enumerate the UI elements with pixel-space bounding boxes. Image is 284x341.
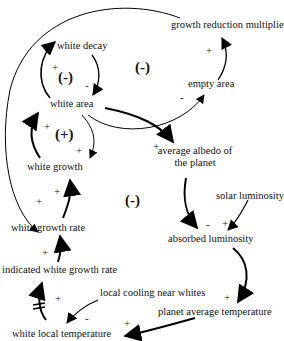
link-area-to-empty xyxy=(88,95,204,129)
delay-mark-2 xyxy=(33,307,45,309)
link-empty-to-multiplier xyxy=(218,38,226,80)
node-white-local-temperature: white local temperature xyxy=(12,328,111,340)
sign-albedo-to-absorbed: - xyxy=(206,219,210,230)
sign-absorbed-to-planet-temp: + xyxy=(224,292,230,303)
sign-solar-to-absorbed: + xyxy=(222,218,228,229)
link-planet-temp-to-local xyxy=(125,318,195,336)
link-albedo-to-absorbed xyxy=(184,178,197,228)
causal-loop-diagram: growth reduction multiplier white decay … xyxy=(0,0,284,341)
node-white-decay: white decay xyxy=(57,40,107,52)
link-growth-to-area xyxy=(32,113,41,158)
sign-rate-to-growth: + xyxy=(54,186,60,197)
node-planet-average-temperature: planet average temperature xyxy=(158,306,272,318)
loop-albedo-polarity: (-) xyxy=(125,193,140,208)
link-area-to-albedo xyxy=(105,108,173,142)
loop-empty-area-polarity: (-) xyxy=(135,60,150,75)
sign-indicated-to-rate: + xyxy=(42,247,48,258)
link-rate-to-growth xyxy=(63,180,71,218)
delay-mark-1 xyxy=(33,303,45,305)
sign-multiplier-to-rate: + xyxy=(36,196,42,207)
loop-growth-polarity: (+) xyxy=(55,127,74,142)
node-absorbed-luminosity: absorbed luminosity xyxy=(168,233,253,245)
sign-temp-to-indicated: + xyxy=(55,293,61,304)
node-average-albedo: average albedo of the planet xyxy=(150,145,240,169)
node-white-growth: white growth xyxy=(27,161,83,173)
sign-decay-to-area: - xyxy=(85,80,89,91)
sign-area-to-albedo: + xyxy=(153,141,159,152)
node-white-area: white area xyxy=(50,98,93,110)
loop-decay-polarity: (-) xyxy=(58,70,73,85)
sign-growth-to-area: + xyxy=(44,121,50,132)
sign-area-to-empty: - xyxy=(180,92,184,103)
node-solar-luminosity: solar luminosity xyxy=(216,190,284,202)
link-local-to-indicated xyxy=(39,283,46,320)
link-cooling-to-local xyxy=(67,300,98,323)
sign-area-to-decay: + xyxy=(52,62,58,73)
sign-area-to-growth: + xyxy=(76,145,82,156)
link-area-to-growth xyxy=(82,115,94,158)
node-average-albedo-line1: average albedo of xyxy=(150,145,240,157)
link-decay-to-area xyxy=(92,55,99,95)
link-indicated-to-rate xyxy=(58,236,61,262)
node-growth-reduction-multiplier: growth reduction multiplier xyxy=(171,19,284,31)
sign-empty-to-multiplier: + xyxy=(206,45,212,56)
sign-cooling-to-local: - xyxy=(85,313,89,324)
node-empty-area: empty area xyxy=(188,78,234,90)
node-white-growth-rate: white growth rate xyxy=(11,222,85,234)
node-indicated-white-growth-rate: indicated white growth rate xyxy=(2,264,117,276)
link-solar-to-absorbed xyxy=(228,200,248,230)
node-local-cooling-near-whites: local cooling near whites xyxy=(100,287,205,299)
node-average-albedo-line2: the planet xyxy=(150,157,240,169)
link-absorbed-to-planet-temp xyxy=(233,248,247,302)
sign-planet-temp-to-local: + xyxy=(124,318,130,329)
